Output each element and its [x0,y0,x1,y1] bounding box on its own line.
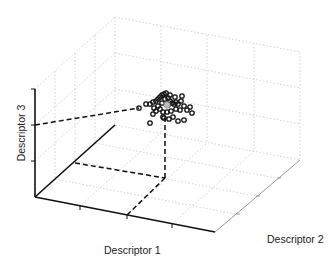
data-point [148,121,152,125]
z-axis-label: Descriptor 3 [15,98,27,168]
axis-ticks [31,89,172,228]
centroid-marker [164,102,170,108]
data-point [179,99,183,103]
axis-descriptor-2 [215,160,300,232]
data-point [182,104,186,108]
data-point [180,94,184,98]
data-point [182,118,186,122]
data-point [190,111,194,115]
data-point [171,115,175,119]
projection-lines [35,108,165,215]
data-point [176,119,180,123]
x-axis-label: Descriptor 1 [104,244,161,256]
y-axis-label: Descriptor 2 [267,233,324,245]
data-point [151,112,155,116]
data-point [173,95,177,99]
data-point [185,108,189,112]
